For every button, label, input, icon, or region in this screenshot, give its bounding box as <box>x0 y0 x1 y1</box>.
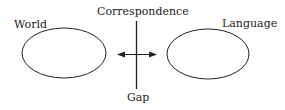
world-ellipse <box>22 28 106 78</box>
diagram-canvas: World Correspondence Language Gap <box>0 0 285 110</box>
world-label: World <box>14 18 47 31</box>
language-label: Language <box>222 17 277 30</box>
gap-label: Gap <box>127 91 149 104</box>
language-ellipse <box>167 29 249 79</box>
correspondence-label: Correspondence <box>97 5 189 18</box>
